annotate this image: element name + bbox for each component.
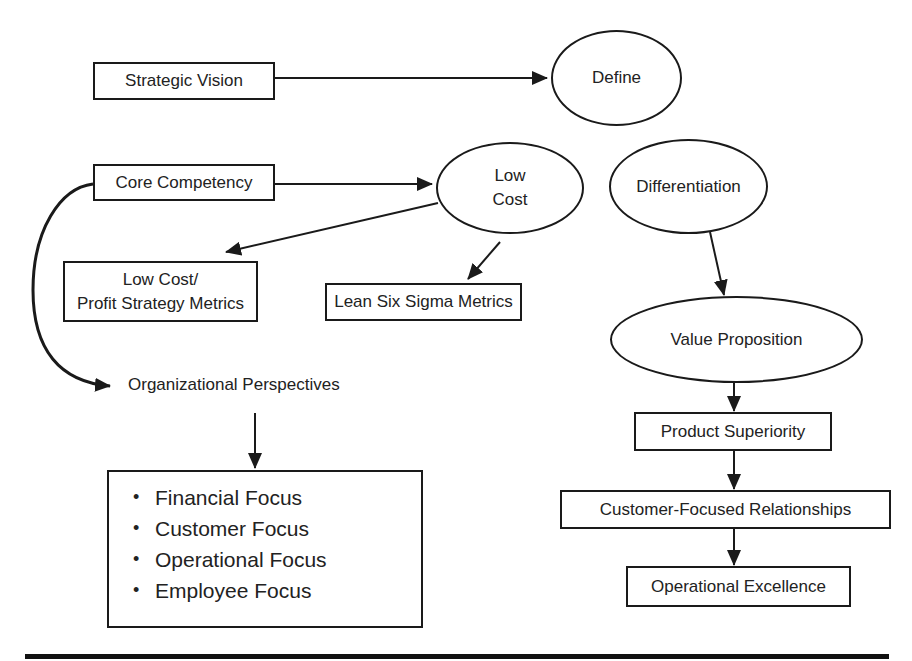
node-product-superiority-label: Product Superiority (661, 422, 806, 442)
arrow-lowcost-to-lean (468, 242, 500, 279)
node-strategic-vision-label: Strategic Vision (125, 71, 243, 91)
node-low-cost: Low Cost (436, 142, 584, 234)
node-organizational-perspectives: Organizational Perspectives (128, 375, 340, 395)
node-lean-six-sigma: Lean Six Sigma Metrics (325, 283, 522, 321)
node-operational-excellence: Operational Excellence (626, 566, 851, 607)
node-customer-focused-relationships: Customer-Focused Relationships (560, 490, 891, 529)
node-low-cost-profit-line2: Profit Strategy Metrics (77, 292, 244, 316)
node-low-cost-profit-metrics: Low Cost/ Profit Strategy Metrics (63, 261, 258, 322)
arrow-lowcost-to-profit-metrics (226, 203, 438, 252)
focus-item-operational: Operational Focus (133, 544, 421, 575)
node-core-competency-label: Core Competency (115, 173, 252, 193)
focus-item-financial: Financial Focus (133, 482, 421, 513)
focus-list-box: Financial Focus Customer Focus Operation… (107, 470, 423, 628)
node-differentiation-label: Differentiation (636, 177, 741, 197)
focus-item-employee: Employee Focus (133, 575, 421, 606)
node-define: Define (551, 30, 682, 126)
node-operational-excellence-label: Operational Excellence (651, 577, 826, 597)
node-lean-six-sigma-label: Lean Six Sigma Metrics (334, 292, 513, 312)
node-low-cost-profit-line1: Low Cost/ (123, 268, 199, 292)
node-value-proposition: Value Proposition (610, 296, 863, 383)
node-customer-focused-label: Customer-Focused Relationships (600, 500, 851, 520)
node-low-cost-line2: Cost (493, 188, 528, 212)
node-low-cost-line1: Low (494, 164, 525, 188)
node-value-proposition-label: Value Proposition (671, 330, 803, 350)
node-define-label: Define (592, 68, 641, 88)
node-differentiation: Differentiation (609, 139, 768, 234)
focus-item-customer: Customer Focus (133, 513, 421, 544)
node-product-superiority: Product Superiority (634, 412, 832, 451)
arrow-diff-to-value (710, 232, 724, 295)
strategy-diagram: Strategic Vision Define Core Competency … (0, 0, 912, 661)
focus-list: Financial Focus Customer Focus Operation… (133, 482, 421, 606)
bottom-rule-divider (25, 654, 889, 659)
node-core-competency: Core Competency (93, 164, 275, 201)
node-strategic-vision: Strategic Vision (93, 62, 275, 100)
